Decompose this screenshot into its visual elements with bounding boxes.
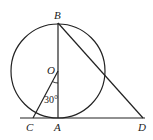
label-c: C bbox=[26, 121, 34, 133]
label-d: D bbox=[137, 121, 146, 133]
label-a: A bbox=[53, 121, 61, 133]
angle-label: 30° bbox=[44, 94, 58, 105]
angle-arc bbox=[52, 82, 58, 83]
label-b: B bbox=[54, 9, 61, 21]
segment-bd bbox=[58, 23, 143, 118]
label-o: O bbox=[47, 64, 55, 76]
geometry-diagram: B O 30° C A D bbox=[0, 0, 153, 140]
